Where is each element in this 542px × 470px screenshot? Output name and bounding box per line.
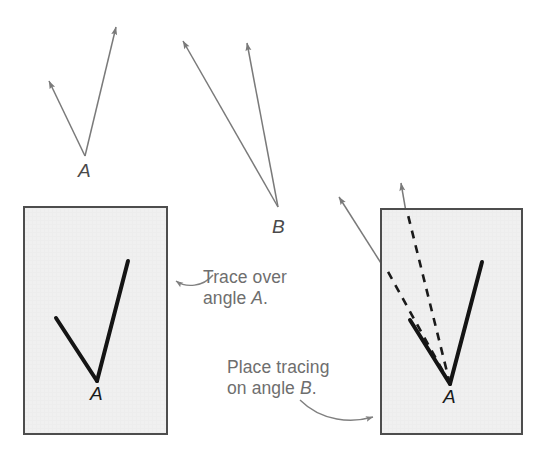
angle-a-original xyxy=(49,27,116,156)
caption-place-line-2-angle-name: B xyxy=(300,378,312,398)
angle-a-original-label: A xyxy=(78,160,91,182)
place-tracing-pointer xyxy=(300,400,373,420)
caption-place-line-2-prefix: on angle xyxy=(227,378,300,398)
caption-place-line-2-suffix: . xyxy=(312,378,317,398)
caption-trace-line-2-prefix: angle xyxy=(203,288,251,308)
caption-trace-line-1: Trace over xyxy=(203,267,287,288)
caption-place-tracing-on-angle-b: Place tracing on angle B. xyxy=(227,357,329,399)
traced-angle-a-right-label: A xyxy=(443,386,456,408)
traced-angle-a-left-label: A xyxy=(90,383,103,405)
tracing-angles-figure xyxy=(0,0,542,470)
caption-trace-over-angle-a: Trace over angle A. xyxy=(203,267,287,309)
angle-b-ray-2 xyxy=(247,43,278,207)
angle-a-ray-2 xyxy=(85,27,116,156)
angle-b-original xyxy=(183,41,278,207)
caption-trace-line-2: angle A. xyxy=(203,288,287,309)
caption-trace-line-2-angle-name: A xyxy=(251,288,263,308)
caption-place-line-2: on angle B. xyxy=(227,378,329,399)
angle-b-original-label: B xyxy=(272,216,285,238)
place-tracing-pointer-curve xyxy=(300,400,373,420)
angle-b-outside-ray-1 xyxy=(339,197,386,271)
caption-trace-line-2-suffix: . xyxy=(263,288,268,308)
angle-b-outside-ray-2 xyxy=(401,183,406,212)
angle-a-ray-1 xyxy=(49,81,85,156)
angle-b-ray-1 xyxy=(183,41,278,207)
caption-place-line-1: Place tracing xyxy=(227,357,329,378)
